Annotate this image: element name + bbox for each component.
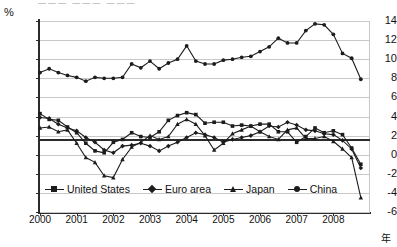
- legend-item-euro-area[interactable]: Euro area: [143, 183, 211, 195]
- series-marker: [222, 120, 226, 124]
- series-line-china: [40, 24, 361, 81]
- gridline: [40, 212, 370, 213]
- series-marker: [148, 59, 152, 63]
- diamond-marker-icon: [143, 185, 162, 194]
- series-marker: [249, 133, 254, 138]
- series-marker: [56, 71, 60, 75]
- series-marker: [304, 29, 308, 33]
- series-marker: [148, 133, 152, 137]
- legend-item-china[interactable]: China: [288, 183, 337, 195]
- legend-item-japan[interactable]: Japan: [224, 183, 275, 195]
- series-marker: [130, 131, 134, 135]
- series-marker: [184, 135, 189, 140]
- series-marker: [203, 121, 207, 125]
- series-marker: [240, 55, 244, 59]
- series-marker: [231, 57, 235, 61]
- series-marker: [359, 77, 363, 81]
- series-marker: [304, 128, 309, 133]
- series-marker: [111, 76, 115, 80]
- series-marker: [267, 45, 271, 49]
- square-marker-icon: [45, 185, 64, 194]
- series-marker: [75, 75, 79, 79]
- series-marker: [231, 124, 235, 128]
- triangle-marker-icon: [224, 185, 243, 194]
- series-marker: [121, 75, 125, 79]
- series-marker: [359, 166, 364, 171]
- x-axis-unit-label: 年: [381, 230, 391, 245]
- series-marker: [212, 135, 217, 140]
- series-marker: [175, 140, 180, 145]
- series-marker: [295, 140, 299, 144]
- series-marker: [249, 54, 253, 58]
- series-marker: [239, 135, 244, 140]
- series-marker: [221, 58, 225, 62]
- series-marker: [176, 114, 180, 118]
- series-marker: [194, 59, 198, 63]
- series-marker: [112, 140, 116, 144]
- series-marker: [184, 117, 188, 121]
- series-marker: [276, 36, 280, 40]
- series-marker: [185, 44, 189, 48]
- series-marker: [313, 22, 317, 26]
- chart-root: ——— ——— ——— % 年 14121086420-2-4-6 200020…: [0, 0, 397, 247]
- series-marker: [166, 61, 170, 65]
- series-marker: [341, 52, 345, 56]
- y-axis-unit-label: %: [4, 6, 14, 18]
- series-marker: [240, 123, 244, 127]
- series-marker: [341, 133, 345, 137]
- series-marker: [167, 119, 171, 123]
- series-marker: [130, 62, 134, 66]
- series-marker: [157, 130, 161, 134]
- series-marker: [93, 149, 97, 153]
- series-marker: [93, 75, 97, 79]
- circle-marker-icon: [288, 185, 307, 194]
- series-marker: [258, 50, 262, 54]
- series-marker: [166, 144, 171, 149]
- series-marker: [157, 67, 161, 71]
- series-marker: [212, 120, 216, 124]
- series-marker: [277, 130, 281, 134]
- series-marker: [121, 138, 125, 142]
- chart-legend: United StatesEuro areaJapanChina: [46, 181, 336, 197]
- legend-item-united-states[interactable]: United States: [45, 183, 130, 195]
- series-marker: [84, 141, 88, 145]
- series-marker: [139, 135, 143, 139]
- series-line-euro-area: [40, 117, 361, 168]
- series-marker: [157, 149, 162, 154]
- series-marker: [102, 76, 106, 80]
- series-marker: [286, 41, 290, 45]
- legend-label: Japan: [246, 183, 275, 195]
- series-marker: [331, 32, 335, 36]
- series-marker: [194, 113, 198, 117]
- legend-label: China: [310, 183, 337, 195]
- series-marker: [47, 67, 51, 71]
- series-marker: [359, 195, 363, 199]
- series-marker: [38, 112, 42, 116]
- series-marker: [295, 41, 299, 45]
- series-marker: [350, 56, 354, 60]
- series-marker: [285, 120, 290, 125]
- series-marker: [322, 134, 326, 138]
- series-marker: [258, 122, 262, 126]
- legend-label: Euro area: [165, 183, 211, 195]
- series-marker: [276, 125, 281, 130]
- legend-label: United States: [67, 183, 130, 195]
- series-marker: [57, 119, 61, 123]
- series-marker: [332, 129, 336, 133]
- series-marker: [176, 57, 180, 61]
- series-marker: [66, 74, 70, 78]
- series-marker: [38, 71, 42, 75]
- series-marker: [322, 23, 326, 27]
- series-marker: [194, 130, 199, 135]
- series-marker: [185, 111, 189, 115]
- series-marker: [84, 79, 88, 83]
- series-marker: [148, 144, 153, 149]
- series-marker: [139, 66, 143, 70]
- series-marker: [212, 62, 216, 66]
- cropped-header-text: ——— ——— ———: [38, 0, 338, 6]
- series-marker: [230, 137, 235, 142]
- series-marker: [203, 62, 207, 66]
